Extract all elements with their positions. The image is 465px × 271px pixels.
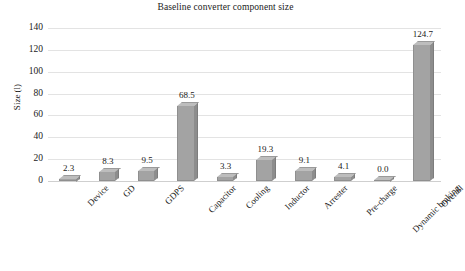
bar-value-label: 9.5 — [142, 155, 153, 165]
bar: 4.1 — [334, 28, 351, 181]
x-axis-label: Arrester — [322, 183, 350, 211]
bar-value-label: 68.5 — [179, 90, 195, 100]
bar-front-face — [256, 160, 273, 181]
x-axis-label: Cooling — [243, 183, 271, 211]
x-axis-label: GDPS — [163, 183, 186, 206]
y-tick-label: 20 — [3, 153, 43, 163]
x-axis-label: Capacitor — [206, 183, 238, 215]
x-axis-label: Overall — [439, 183, 465, 209]
x-axis-label: Device — [85, 183, 110, 208]
bar: 124.7 — [413, 28, 430, 181]
bar-value-label: 8.3 — [102, 156, 113, 166]
y-tick: 0 — [48, 181, 49, 182]
bar-side-face — [194, 103, 198, 181]
bar-front-face — [413, 45, 430, 181]
bar-series: 2.38.39.568.53.319.39.14.10.0124.7 — [48, 28, 441, 181]
bar-value-label: 9.1 — [299, 155, 310, 165]
bar-front-face — [295, 171, 312, 181]
y-tick-label: 60 — [3, 109, 43, 119]
x-axis-label: Inductor — [283, 183, 312, 212]
plot-area: 020406080100120140 2.38.39.568.53.319.39… — [48, 28, 441, 181]
bar-side-face — [312, 168, 316, 181]
bar: 68.5 — [177, 28, 194, 181]
y-tick-label: 0 — [3, 175, 43, 185]
bar-body — [99, 172, 116, 181]
bar-body — [374, 180, 391, 182]
bar-front-face — [334, 177, 351, 181]
bar-side-face — [272, 157, 276, 181]
bar-value-label: 4.1 — [338, 161, 349, 171]
bar-body — [256, 160, 273, 181]
x-axis-label: Pre-charge — [364, 183, 399, 218]
bar-front-face — [138, 171, 155, 181]
bar-value-label: 124.7 — [413, 29, 433, 39]
bar-body — [59, 179, 76, 182]
bar: 9.5 — [138, 28, 155, 181]
bar-body — [217, 177, 234, 181]
y-tick-label: 80 — [3, 88, 43, 98]
y-tick-label: 120 — [3, 44, 43, 54]
bar: 0.0 — [374, 28, 391, 181]
bar-front-face — [177, 106, 194, 181]
bar: 2.3 — [59, 28, 76, 181]
bar-value-label: 19.3 — [258, 144, 274, 154]
bar-body — [413, 45, 430, 181]
gridline — [48, 181, 441, 182]
bar-value-label: 3.3 — [220, 161, 231, 171]
y-tick-label: 100 — [3, 66, 43, 76]
bar: 9.1 — [295, 28, 312, 181]
y-tick-label: 40 — [3, 131, 43, 141]
bar: 19.3 — [256, 28, 273, 181]
bar-body — [138, 171, 155, 181]
bar-body — [295, 171, 312, 181]
bar-value-label: 2.3 — [63, 163, 74, 173]
x-axis-labels: DeviceGDGDPSCapacitorCoolingInductorArre… — [48, 183, 441, 271]
bar-value-label: 0.0 — [377, 164, 388, 174]
y-tick-label: 140 — [3, 22, 43, 32]
bar-side-face — [233, 174, 237, 181]
bar-side-face — [154, 167, 158, 181]
bar-body — [334, 177, 351, 181]
bar-side-face — [430, 42, 434, 181]
x-axis-label: GD — [121, 183, 137, 199]
bar-front-face — [99, 172, 116, 181]
bar: 8.3 — [99, 28, 116, 181]
chart-title: Baseline converter component size — [0, 2, 451, 12]
bar-side-face — [115, 169, 119, 181]
bar-front-face — [217, 177, 234, 181]
bar: 3.3 — [217, 28, 234, 181]
bar-body — [177, 106, 194, 181]
